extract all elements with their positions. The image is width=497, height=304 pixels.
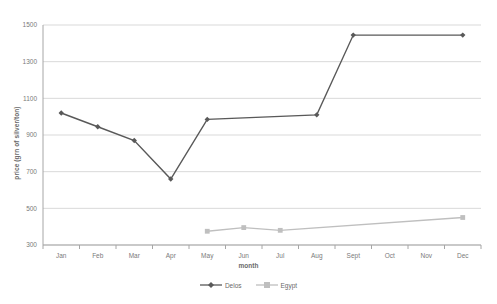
series-egypt [205, 215, 465, 234]
y-tick-label: 1500 [23, 21, 38, 28]
x-axis-ticks [43, 245, 481, 249]
data-point-marker [460, 32, 465, 37]
x-tick-label: Aug [311, 252, 323, 260]
x-tick-label: Apr [166, 252, 177, 260]
x-tick-label: Sept [347, 252, 361, 260]
chart-plot-area: 150013001100900700500300 JanFebMarAprMay… [0, 0, 497, 304]
series-line [61, 35, 463, 179]
data-point-marker [59, 110, 64, 115]
data-point-marker [314, 112, 319, 117]
x-tick-label: Oct [385, 252, 395, 259]
x-tick-label: Jun [239, 252, 250, 259]
x-tick-label: May [201, 252, 214, 260]
series-delos [59, 32, 466, 181]
legend-marker-delos-icon [200, 281, 222, 289]
data-point-marker [351, 32, 356, 37]
y-axis-title-text: price (grn of silver/ton) [13, 106, 20, 179]
x-tick-label: Feb [92, 252, 104, 259]
y-tick-label: 900 [26, 131, 37, 138]
chart-container: 150013001100900700500300 JanFebMarAprMay… [0, 0, 497, 304]
y-tick-label: 700 [26, 168, 37, 175]
x-tick-label: Jan [56, 252, 67, 259]
y-tick-label: 500 [26, 205, 37, 212]
x-tick-label: Jul [276, 252, 285, 259]
x-tick-label: Dec [457, 252, 469, 259]
y-tick-label: 1300 [23, 58, 38, 65]
legend-marker-egypt-icon [256, 281, 278, 289]
legend-label-delos: Delos [225, 282, 242, 289]
legend-item-delos: Delos [200, 281, 242, 289]
y-tick-label: 300 [26, 241, 37, 248]
x-tick-labels: JanFebMarAprMayJunJulAugSeptOctNovDec [56, 252, 469, 260]
chart-legend: Delos Egypt [0, 281, 497, 289]
data-point-marker [205, 229, 210, 234]
legend-label-egypt: Egypt [281, 282, 298, 289]
x-axis-title: month [0, 262, 497, 269]
y-tick-label: 1100 [23, 95, 37, 102]
y-axis-title: price (grn of silver/ton) [8, 78, 24, 208]
data-point-marker [95, 124, 100, 129]
legend-item-egypt: Egypt [256, 281, 298, 289]
x-tick-label: Mar [129, 252, 141, 259]
data-point-marker [241, 225, 246, 230]
data-point-marker [460, 215, 465, 220]
x-tick-label: Nov [420, 252, 432, 259]
y-tick-labels: 150013001100900700500300 [23, 21, 38, 248]
data-point-marker [278, 228, 283, 233]
gridlines [43, 25, 481, 245]
